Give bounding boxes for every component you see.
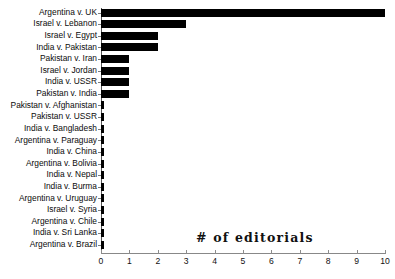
bar bbox=[101, 9, 385, 17]
value-axis-tick-label: 3 bbox=[175, 256, 197, 266]
bar bbox=[101, 20, 186, 28]
category-label: India v. USSR bbox=[45, 76, 97, 88]
value-axis-tick-label: 5 bbox=[232, 256, 254, 266]
category-label: Argentina v. Uruguay bbox=[19, 193, 97, 205]
bar bbox=[101, 55, 129, 63]
bar bbox=[101, 32, 158, 40]
value-axis-tick-label: 6 bbox=[260, 256, 282, 266]
category-label: India v. Bangladesh bbox=[24, 123, 97, 135]
value-axis-tick bbox=[328, 250, 329, 254]
bar bbox=[101, 136, 104, 144]
category-label: India v. Sri Lanka bbox=[33, 227, 97, 239]
category-label: India v. Burma bbox=[44, 181, 97, 193]
value-axis-tick-label: 4 bbox=[204, 256, 226, 266]
value-axis-tick bbox=[129, 250, 130, 254]
category-label: Pakistan v. Afghanistan bbox=[11, 100, 97, 112]
value-axis-tick-label: 8 bbox=[317, 256, 339, 266]
bar bbox=[101, 171, 104, 179]
category-label: India v. China bbox=[46, 146, 97, 158]
bar bbox=[101, 101, 104, 109]
bar bbox=[101, 113, 104, 121]
bar bbox=[101, 67, 129, 75]
bar bbox=[101, 148, 104, 156]
bar bbox=[101, 206, 104, 214]
value-axis-tick bbox=[158, 250, 159, 254]
value-axis-tick bbox=[101, 250, 102, 254]
category-label: Israel v. Jordan bbox=[40, 65, 97, 77]
category-label: India v. Nepal bbox=[46, 169, 97, 181]
bar bbox=[101, 43, 158, 51]
category-label: Argentina v. Chile bbox=[32, 216, 97, 228]
bar bbox=[101, 78, 129, 86]
bar bbox=[101, 183, 104, 191]
category-label: Israel v. Syria bbox=[47, 204, 97, 216]
category-label: Israel v. Lebanon bbox=[33, 18, 97, 30]
bar bbox=[101, 90, 129, 98]
value-axis-tick-label: 1 bbox=[118, 256, 140, 266]
category-label: Argentina v. UK bbox=[39, 7, 97, 19]
category-label: Argentina v. Bolivia bbox=[26, 158, 97, 170]
category-label: Pakistan v. Iran bbox=[40, 53, 97, 65]
plot-area: Argentina v. UKIsrael v. LebanonIsrael v… bbox=[0, 6, 389, 279]
value-axis-tick-label: 7 bbox=[289, 256, 311, 266]
value-axis-tick-label: 0 bbox=[90, 256, 112, 266]
value-axis-tick bbox=[243, 250, 244, 254]
value-axis-tick bbox=[271, 250, 272, 254]
value-axis-tick bbox=[215, 250, 216, 254]
chart-annotation: # of editorials bbox=[196, 230, 314, 245]
value-axis-tick-label: 2 bbox=[147, 256, 169, 266]
category-label: Argentina v. Paraguay bbox=[15, 135, 97, 147]
value-axis-tick bbox=[186, 250, 187, 254]
value-axis-tick bbox=[300, 250, 301, 254]
bar bbox=[101, 125, 104, 133]
value-axis-tick-label: 10 bbox=[374, 256, 395, 266]
category-label: India v. Pakistan bbox=[36, 42, 97, 54]
bar bbox=[101, 241, 104, 249]
value-axis-tick bbox=[357, 250, 358, 254]
category-label: Argentina v. Brazil bbox=[30, 239, 97, 251]
category-label: Pakistan v. India bbox=[36, 88, 97, 100]
category-label: Israel v. Egypt bbox=[45, 30, 97, 42]
bar bbox=[101, 160, 104, 168]
category-label: Pakistan v. USSR bbox=[31, 111, 97, 123]
value-axis-tick bbox=[385, 250, 386, 254]
value-axis-tick-label: 9 bbox=[346, 256, 368, 266]
bar bbox=[101, 194, 104, 202]
bar bbox=[101, 218, 104, 226]
bar bbox=[101, 229, 104, 237]
